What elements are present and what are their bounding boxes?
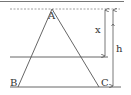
- side-ac: [52, 9, 99, 87]
- vertex-label-b: B: [10, 77, 17, 88]
- dimension-label-h: h: [116, 43, 123, 54]
- vertex-label-a: A: [47, 10, 56, 21]
- dimension-label-x: x: [95, 24, 101, 35]
- triangle-diagram: A B C x h: [0, 0, 131, 95]
- side-ab: [18, 9, 52, 87]
- vertex-label-c: C: [101, 77, 109, 88]
